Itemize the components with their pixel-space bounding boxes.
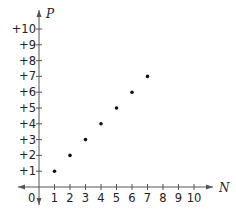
y-axis-arrow-down-icon xyxy=(37,198,42,205)
data-point xyxy=(53,169,57,173)
y-tick-label: +5 xyxy=(19,101,36,115)
data-points xyxy=(53,75,150,173)
data-point xyxy=(115,106,119,110)
x-tick-label: 1 xyxy=(51,191,58,205)
x-tick-label: 3 xyxy=(82,191,89,205)
y-tick-label: +10 xyxy=(12,22,36,36)
axes: 12345678910+1+2+3+4+5+6+7+8+9+10 xyxy=(12,10,213,205)
y-tick-label: +6 xyxy=(19,85,36,99)
x-tick-label: 6 xyxy=(128,191,135,205)
data-point xyxy=(84,138,88,142)
x-tick-label: 4 xyxy=(97,191,104,205)
y-tick-label: +9 xyxy=(19,38,36,52)
y-axis-label: P xyxy=(45,7,55,21)
y-axis-arrow-up-icon xyxy=(37,10,42,17)
x-axis-label: N xyxy=(218,181,230,195)
x-tick-label: 8 xyxy=(159,191,166,205)
x-axis-arrow-right-icon xyxy=(206,185,213,190)
y-tick-label: +2 xyxy=(19,148,36,162)
data-point xyxy=(68,154,72,158)
x-tick-label: 5 xyxy=(113,191,120,205)
x-tick-label: 9 xyxy=(175,191,182,205)
y-tick-label: +3 xyxy=(19,133,36,147)
scatter-chart: 12345678910+1+2+3+4+5+6+7+8+9+10 P N 0 xyxy=(0,0,236,217)
x-tick-label: 7 xyxy=(144,191,151,205)
origin-label: 0 xyxy=(28,191,35,205)
y-tick-label: +8 xyxy=(19,54,36,68)
data-point xyxy=(99,122,103,126)
x-tick-label: 10 xyxy=(187,191,202,205)
x-axis-arrow-left-icon xyxy=(18,185,25,190)
y-tick-label: +7 xyxy=(19,69,36,83)
data-point xyxy=(130,90,134,94)
x-tick-label: 2 xyxy=(66,191,73,205)
y-tick-label: +1 xyxy=(19,164,36,178)
data-point xyxy=(146,75,150,79)
y-tick-label: +4 xyxy=(19,117,36,131)
